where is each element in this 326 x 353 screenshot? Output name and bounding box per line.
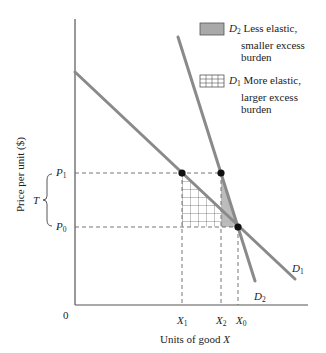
x0-label: X0 [236,314,246,330]
tax-label: T [33,194,39,206]
legend-item-d2: D2 Less elastic, smaller excess burden [229,22,305,64]
dashed-guides [75,173,238,305]
p0-label: P0 [56,220,66,236]
d2-label: D2 [254,290,266,306]
legend-item-d1: D1 More elastic, larger excess burden [229,74,301,116]
d1-label: D1 [292,262,304,278]
p1-label: P1 [56,166,66,182]
origin-label: 0 [63,309,69,321]
point-x1-p1 [178,169,185,176]
legend-d2-var: D [229,22,237,34]
legend-swatch-d2-solid [200,23,224,35]
point-x0-p0 [234,223,241,230]
legend-d1-var: D [229,74,237,86]
legend-swatch-d1-grid [200,75,224,87]
x1-label: X1 [177,314,187,330]
tax-brace [43,174,52,226]
x-axis-label: Units of good X [160,333,230,345]
x2-label: X2 [216,314,226,330]
y-axis-label: Price per unit ($) [14,137,26,212]
point-x2-p1 [217,169,224,176]
